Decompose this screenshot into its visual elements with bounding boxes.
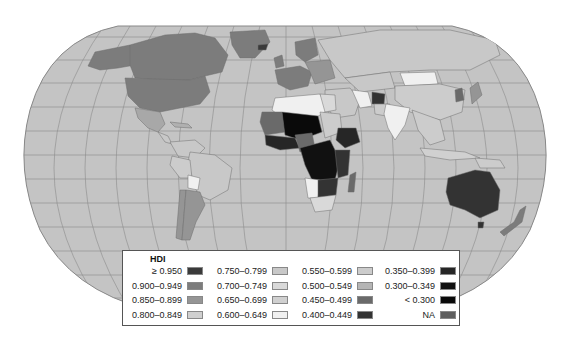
legend-item: NA (373, 308, 456, 323)
legend-swatch (187, 267, 203, 275)
legend-swatch (187, 296, 203, 304)
legend-item: 0.400–0.449 (288, 308, 373, 323)
legend-item: 0.650–0.699 (203, 293, 288, 308)
legend-swatch (272, 267, 288, 275)
legend-title: HDI (150, 254, 166, 264)
legend-item: 0.600–0.649 (203, 308, 288, 323)
hdi-legend: HDI ≥ 0.950 0.900–0.949 0.850–0.899 0.80… (122, 250, 460, 326)
legend-swatch (272, 296, 288, 304)
legend-item: 0.900–0.949 (125, 279, 203, 294)
legend-item: 0.750–0.799 (203, 264, 288, 279)
legend-column-2: 0.750–0.799 0.700–0.749 0.650–0.699 0.60… (203, 264, 288, 322)
legend-item: 0.700–0.749 (203, 279, 288, 294)
legend-swatch (440, 282, 456, 290)
south-africa (310, 195, 336, 212)
mongolia (400, 72, 438, 86)
legend-swatch (272, 311, 288, 319)
legend-item: 0.800–0.849 (125, 308, 203, 323)
legend-swatch (357, 296, 373, 304)
legend-item: 0.550–0.599 (288, 264, 373, 279)
legend-column-1: ≥ 0.950 0.900–0.949 0.850–0.899 0.800–0.… (125, 264, 203, 322)
legend-column-3: 0.550–0.599 0.500–0.549 0.450–0.499 0.40… (288, 264, 373, 322)
legend-item: 0.450–0.499 (288, 293, 373, 308)
legend-item: ≥ 0.950 (125, 264, 203, 279)
legend-column-4: 0.350–0.399 0.300–0.349 < 0.300 NA (373, 264, 456, 322)
west-africa-mauritania (260, 112, 285, 135)
legend-item: < 0.300 (373, 293, 456, 308)
legend-swatch (357, 267, 373, 275)
legend-item: 0.350–0.399 (373, 264, 456, 279)
legend-swatch (357, 311, 373, 319)
legend-swatch (272, 282, 288, 290)
afghanistan (372, 92, 385, 104)
legend-item: 0.850–0.899 (125, 293, 203, 308)
tasmania (478, 222, 484, 228)
legend-swatch (440, 296, 456, 304)
legend-swatch (187, 311, 203, 319)
legend-swatch (440, 311, 456, 319)
iceland (258, 44, 268, 50)
legend-swatch (440, 267, 456, 275)
legend-swatch (357, 282, 373, 290)
legend-item: 0.300–0.349 (373, 279, 456, 294)
legend-swatch (187, 282, 203, 290)
legend-item: 0.500–0.549 (288, 279, 373, 294)
